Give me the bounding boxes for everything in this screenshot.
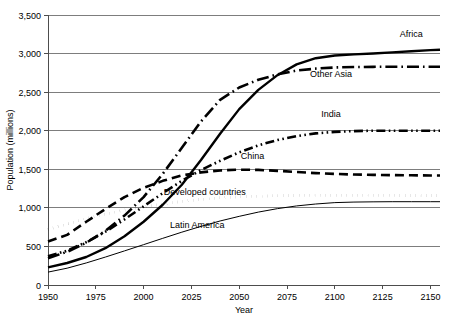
axes-group <box>48 15 440 285</box>
x-tick-label: 2075 <box>277 292 297 302</box>
y-tick-label: 2,500 <box>18 88 41 98</box>
y-tick-label: 3,500 <box>18 11 41 21</box>
series-label-africa: Africa <box>400 29 423 39</box>
x-tick-label: 2000 <box>134 292 154 302</box>
series-line-developed-countries <box>48 195 440 229</box>
x-axis-title: Year <box>235 305 253 315</box>
series-label-china: China <box>241 151 265 161</box>
series-label-latin-america: Latin America <box>170 220 225 230</box>
x-tick-label: 1975 <box>86 292 106 302</box>
tickmarks-group <box>44 15 430 289</box>
x-tick-label: 2050 <box>229 292 249 302</box>
x-tick-label: 2100 <box>325 292 345 302</box>
x-tick-label: 2025 <box>181 292 201 302</box>
y-tick-label: 1,500 <box>18 165 41 175</box>
y-tick-label: 1,000 <box>18 203 41 213</box>
series-label-india: India <box>321 109 341 119</box>
population-projection-chart: 05001,0001,5002,0002,5003,0003,500 19501… <box>0 0 453 323</box>
x-tick-label: 2125 <box>373 292 393 302</box>
y-axis-title: Population (millions) <box>5 109 15 190</box>
chart-canvas: 05001,0001,5002,0002,5003,0003,500 19501… <box>0 0 453 323</box>
x-tick-label: 2150 <box>420 292 440 302</box>
y-tick-label: 500 <box>26 242 41 252</box>
y-tick-label: 0 <box>36 281 41 291</box>
x-tick-label: 1950 <box>38 292 58 302</box>
series-label-developed-countries: Developed countries <box>164 187 247 197</box>
y-tick-label: 3,000 <box>18 49 41 59</box>
x-tick-labels: 195019752000202520502075210021252150 <box>38 292 440 302</box>
y-tick-label: 2,000 <box>18 126 41 136</box>
series-line-other-asia <box>48 67 440 258</box>
y-tick-labels: 05001,0001,5002,0002,5003,0003,500 <box>18 11 41 291</box>
series-line-latin-america <box>48 202 440 272</box>
series-label-other-asia: Other Asia <box>310 69 352 79</box>
